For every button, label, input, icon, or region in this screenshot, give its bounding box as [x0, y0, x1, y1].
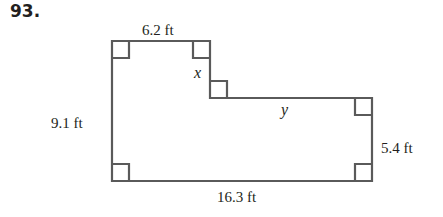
label-right: 5.4 ft	[381, 140, 413, 156]
right-angle-marker-bottom-left	[112, 164, 129, 181]
right-angle-marker-top-right	[193, 41, 210, 58]
l-shape-diagram: 6.2 ft 9.1 ft 5.4 ft 16.3 ft x y	[0, 0, 443, 217]
right-angle-marker-right-top	[355, 98, 372, 115]
label-y: y	[279, 101, 289, 119]
label-x: x	[193, 64, 201, 81]
right-angle-marker-step	[210, 81, 227, 98]
right-angle-marker-bottom-right	[355, 164, 372, 181]
label-bottom: 16.3 ft	[217, 189, 257, 205]
label-left: 9.1 ft	[51, 115, 83, 131]
right-angle-marker-top-left	[112, 41, 129, 58]
label-top: 6.2 ft	[142, 22, 174, 38]
l-shape-outline	[112, 41, 372, 181]
